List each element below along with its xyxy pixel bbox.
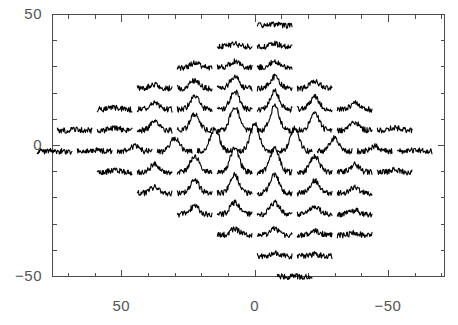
spectrum-trace	[297, 251, 332, 258]
spectrum-trace	[297, 229, 332, 238]
spectrum-trace	[217, 59, 252, 70]
spectrum-trace	[157, 137, 192, 154]
spectrum-trace	[297, 206, 332, 217]
spectrum-trace	[97, 105, 132, 112]
spectrum-trace	[137, 82, 172, 91]
spectrum-trace	[257, 147, 292, 175]
spectrum-trace	[257, 251, 292, 259]
spectrum-trace	[237, 122, 272, 154]
spectrum-trace	[317, 136, 352, 154]
spectrum-trace	[137, 184, 172, 196]
spectrum-trace	[217, 200, 252, 216]
spectrum-trace	[257, 200, 292, 217]
spectrum-trace	[217, 75, 252, 91]
spectrum-trace	[177, 79, 212, 92]
spectrum-trace	[297, 94, 332, 111]
x-axis-tick-label-0: 0	[215, 298, 295, 313]
spectra-grid	[37, 22, 432, 280]
y-axis-tick-label-0: 0	[33, 137, 42, 152]
spectrum-trace	[337, 208, 372, 217]
spectral-map-figure: 50 0 −50 50 0 −50	[0, 0, 458, 325]
spectrum-trace	[257, 74, 292, 91]
spectrum-trace	[137, 120, 172, 133]
spectrum-trace	[337, 101, 372, 113]
spectrum-trace	[97, 126, 132, 133]
spectrum-trace	[137, 101, 172, 112]
spectrum-trace	[377, 125, 412, 133]
spectrum-trace	[337, 185, 372, 196]
spectrum-trace	[337, 162, 372, 175]
x-axis-tick-label-minus50: −50	[348, 298, 428, 313]
spectrum-trace	[337, 230, 372, 238]
spectrum-trace	[257, 22, 292, 28]
spectrum-trace	[257, 41, 292, 49]
spectrum-trace	[257, 89, 292, 113]
axes-frame	[53, 15, 445, 277]
spectrum-trace	[177, 61, 212, 71]
spectrum-trace	[217, 172, 252, 195]
spectrum-trace	[297, 178, 332, 196]
spectrum-trace	[217, 41, 252, 49]
spectrum-trace	[297, 112, 332, 133]
spectrum-trace	[177, 179, 212, 196]
spectrum-trace	[177, 204, 212, 217]
spectrum-trace	[297, 154, 332, 174]
spectrum-trace	[217, 227, 252, 238]
spectrum-trace	[97, 168, 132, 175]
axis-ticks	[53, 15, 445, 277]
spectrum-trace	[117, 144, 152, 154]
spectrum-trace	[77, 148, 112, 154]
spectrum-trace	[177, 155, 212, 174]
spectrum-trace	[277, 126, 312, 154]
plot-canvas	[0, 0, 458, 325]
spectrum-trace	[257, 226, 292, 237]
spectrum-trace	[217, 147, 252, 174]
spectrum-trace	[397, 148, 432, 154]
spectrum-trace	[57, 127, 92, 133]
spectrum-trace	[37, 149, 72, 155]
spectrum-trace	[377, 167, 412, 175]
x-axis-tick-label-50: 50	[81, 298, 161, 313]
y-axis-tick-label-minus50: −50	[15, 268, 42, 283]
spectrum-trace	[177, 113, 212, 133]
spectrum-trace	[257, 60, 292, 70]
spectrum-trace	[337, 121, 372, 133]
spectrum-trace	[177, 95, 212, 112]
spectrum-trace	[197, 127, 232, 153]
spectrum-trace	[357, 144, 392, 155]
spectrum-trace	[297, 80, 332, 92]
spectrum-trace	[137, 162, 172, 175]
spectrum-trace	[257, 173, 292, 196]
y-axis-tick-label-50: 50	[24, 6, 42, 21]
